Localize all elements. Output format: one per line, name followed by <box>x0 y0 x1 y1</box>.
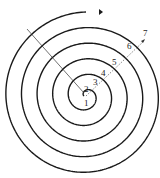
radial-arrowhead-icon <box>141 39 145 43</box>
turn-label-5: 5 <box>112 57 117 67</box>
turn-label-7: 7 <box>143 28 148 38</box>
turn-label-3: 3 <box>93 77 98 87</box>
turn-label-1: 1 <box>84 98 89 108</box>
radial-dashed-line <box>86 40 145 96</box>
spiral-curve <box>6 12 158 172</box>
turn-label-6: 6 <box>127 41 132 51</box>
turn-label-2: 2 <box>84 84 89 94</box>
turn-label-4: 4 <box>101 68 106 78</box>
spiral-diagram: 1 2 3 4 5 6 7 <box>0 0 160 178</box>
arrowhead-icon <box>99 9 103 15</box>
